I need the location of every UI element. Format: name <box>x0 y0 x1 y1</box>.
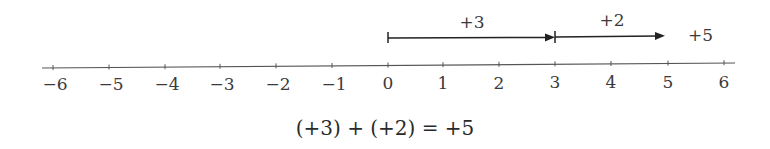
tick-label: 2 <box>494 73 505 93</box>
tick-label: −1 <box>321 74 346 94</box>
tick-label: −6 <box>42 74 67 94</box>
tick-label: 5 <box>663 72 674 92</box>
arrow-plus-3 <box>388 32 555 43</box>
tick-label: 6 <box>719 72 730 92</box>
tick-label: −2 <box>265 74 290 94</box>
arrow-label-plus-2: +2 <box>599 10 624 30</box>
arrow-plus-2 <box>555 31 665 43</box>
tick-label: 3 <box>550 72 561 92</box>
tick-label: −4 <box>154 74 179 94</box>
tick-label: −3 <box>209 74 234 94</box>
tick-label: 0 <box>383 73 394 93</box>
tick-label: 1 <box>438 73 449 93</box>
equation: (+3) + (+2) = +5 <box>296 116 475 140</box>
tick-label: −5 <box>98 74 123 94</box>
arrow-label-plus-3: +3 <box>459 12 484 32</box>
result-label: +5 <box>688 25 713 45</box>
tick-label: 4 <box>606 72 617 92</box>
axis-ticks <box>53 60 724 70</box>
